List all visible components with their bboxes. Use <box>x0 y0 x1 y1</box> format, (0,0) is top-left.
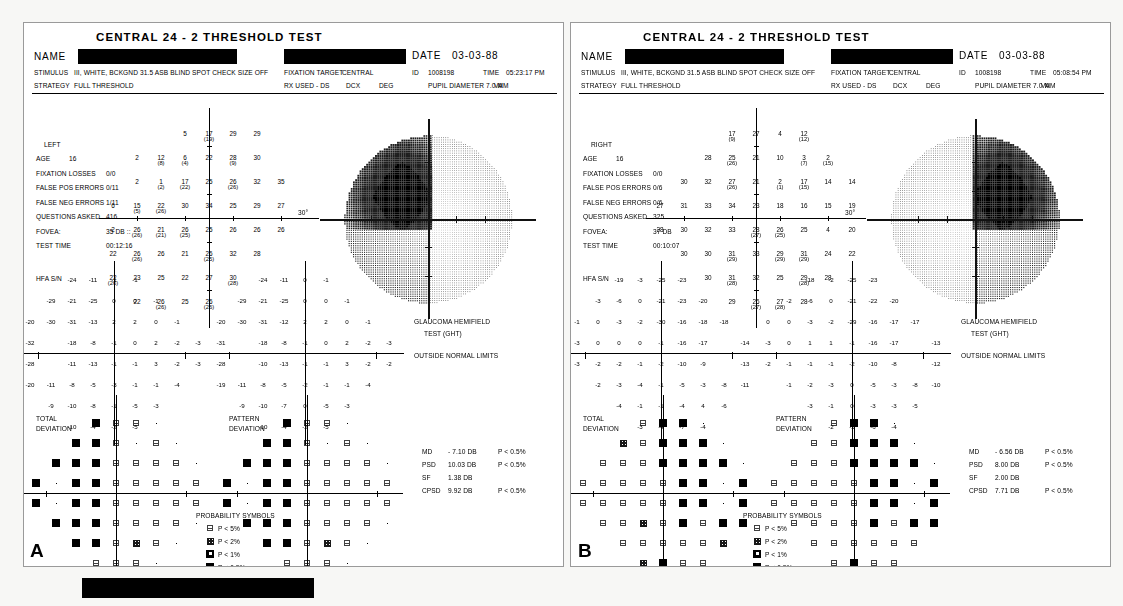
symbol-cell <box>344 440 350 446</box>
symbol-cell <box>850 439 858 447</box>
legend-text-p1: P < 1% <box>218 551 240 558</box>
symbol-cell <box>263 539 271 547</box>
symbol-cell <box>811 440 817 446</box>
legend-symbol-p5 <box>754 525 760 531</box>
symbol-cell <box>364 520 370 526</box>
symbol-cell <box>304 420 310 426</box>
symbol-cell <box>364 500 370 506</box>
symbol-cell <box>930 479 938 487</box>
symbol-cell <box>870 459 878 467</box>
symbol-cell <box>791 480 797 486</box>
symbol-cell <box>324 460 330 466</box>
symbol-cell <box>247 503 248 504</box>
symbol-cell <box>870 499 878 507</box>
symbol-cell <box>283 439 291 447</box>
symbol-cell <box>344 520 350 526</box>
symbol-cell <box>911 540 917 546</box>
visual-field-panel-a: CENTRAL 24 - 2 THRESHOLD TESTNAMESTIMULU… <box>23 22 564 567</box>
symbol-cell <box>347 423 348 424</box>
symbol-cell <box>387 463 388 464</box>
legend-symbol-p5 <box>207 525 213 531</box>
symbol-cell <box>283 519 291 527</box>
symbol-cell <box>347 563 348 564</box>
legend-text-p2: P < 2% <box>218 538 240 545</box>
symbol-cell <box>890 439 898 447</box>
legend-text-p05: P < 0.5% <box>765 564 793 567</box>
symbol-cell <box>930 519 938 527</box>
symbol-cell <box>243 519 251 527</box>
symbol-cell <box>263 499 271 507</box>
symbol-cell <box>811 500 817 506</box>
symbol-cell <box>831 500 837 506</box>
symbol-cell <box>870 479 878 487</box>
legend-symbol-p05 <box>753 563 761 567</box>
symbol-cell <box>344 540 350 546</box>
symbol-cell <box>284 560 290 566</box>
symbol-cell <box>283 479 291 487</box>
symbol-cell <box>851 520 857 526</box>
symbol-cell <box>263 479 271 487</box>
symbol-cell <box>223 479 231 487</box>
symbol-cell <box>771 500 777 506</box>
symbol-cell <box>384 480 390 486</box>
symbol-cell <box>831 480 837 486</box>
legend-symbol-p2 <box>207 538 214 545</box>
axis-tick <box>924 491 925 497</box>
legend-symbol-p1 <box>753 550 761 558</box>
axis-tick <box>237 491 238 497</box>
symbol-cell <box>304 520 310 526</box>
symbol-cell <box>304 480 310 486</box>
symbol-cell <box>324 480 330 486</box>
symbol-cell <box>870 519 878 527</box>
symbol-cell <box>811 480 817 486</box>
symbol-cell <box>387 523 388 524</box>
symbol-cell <box>894 423 895 424</box>
symbol-cell <box>283 459 291 467</box>
panel-a-letter: A <box>30 540 44 562</box>
legend-symbol-p05 <box>206 563 214 567</box>
legend-text-p2: P < 2% <box>765 538 787 545</box>
symbol-cell <box>263 519 271 527</box>
symbol-cell <box>364 460 370 466</box>
symbol-cell <box>791 520 797 526</box>
symbol-cell <box>891 520 897 526</box>
symbol-cell <box>263 439 271 447</box>
symbol-cell <box>850 559 858 567</box>
symbol-cell <box>850 419 858 427</box>
symbol-cell <box>367 543 368 544</box>
legend-text-p5: P < 5% <box>218 525 240 532</box>
symbol-cell <box>811 460 817 466</box>
symbol-cell <box>283 499 291 507</box>
symbol-cell <box>811 520 817 526</box>
symbol-cell <box>791 500 797 506</box>
symbol-cell <box>384 500 390 506</box>
symbol-cell <box>791 460 797 466</box>
symbol-cell <box>914 443 915 444</box>
legend-text-p5: P < 5% <box>765 525 787 532</box>
symbol-plot <box>571 23 1110 566</box>
symbol-cell <box>891 540 897 546</box>
symbol-cell <box>367 443 368 444</box>
symbol-cell <box>771 480 777 486</box>
symbol-cell <box>831 420 837 426</box>
symbol-cell <box>344 460 350 466</box>
symbol-cell <box>870 439 878 447</box>
symbol-cell <box>890 479 898 487</box>
symbol-cell <box>263 459 271 467</box>
symbol-cell <box>930 499 938 507</box>
symbol-cell <box>871 540 877 546</box>
legend-text-p05: P < 0.5% <box>218 564 246 567</box>
symbol-cell <box>831 560 837 566</box>
symbol-cell <box>890 459 898 467</box>
symbol-cell <box>223 499 231 507</box>
probability-symbols-title: PROBABILITY SYMBOLS <box>743 512 822 519</box>
symbol-cell <box>283 539 291 547</box>
symbol-cell <box>870 419 878 427</box>
symbol-cell <box>247 483 248 484</box>
symbol-cell <box>327 443 328 444</box>
visual-field-panel-b: CENTRAL 24 - 2 THRESHOLD TESTNAMESTIMULU… <box>570 22 1111 567</box>
symbol-cell <box>283 419 291 427</box>
symbol-cell <box>850 459 858 467</box>
axis-tick <box>377 491 378 497</box>
symbol-cell <box>871 560 877 566</box>
